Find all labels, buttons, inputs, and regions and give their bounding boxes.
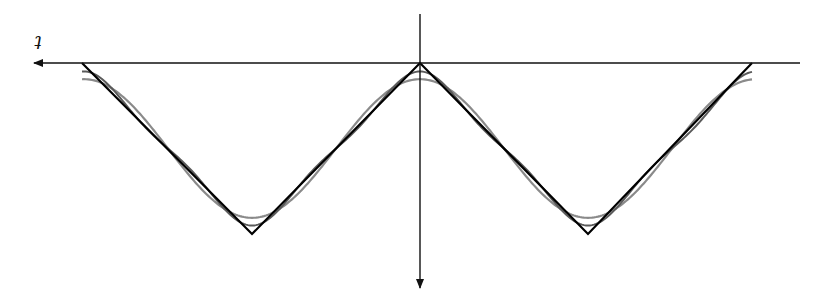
triangle-wave-diagram: t (0, 0, 832, 301)
triangle-wave (82, 63, 752, 234)
fourier-approximation-curve-1 (82, 79, 752, 218)
fourier-approximation-curve-2 (82, 72, 752, 226)
axis-label-t: t (34, 32, 42, 53)
